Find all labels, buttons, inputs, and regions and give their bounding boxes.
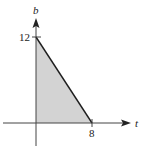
x-tick-label-8: 8: [89, 127, 95, 139]
y-tick-label-12: 12: [19, 31, 30, 43]
t-axis-label: t: [135, 117, 139, 129]
region-diagram: 12 8 b t: [0, 0, 148, 146]
b-axis-label: b: [33, 4, 39, 16]
